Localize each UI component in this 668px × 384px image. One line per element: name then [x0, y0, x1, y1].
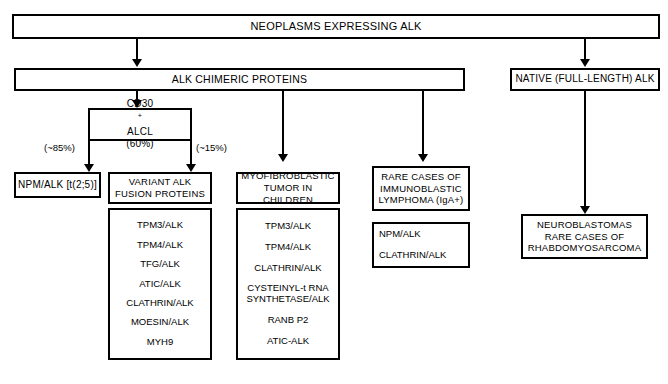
branch-box-chimeric-label: ALK CHIMERIC PROTEINS — [172, 73, 307, 86]
list-item: TFG/ALK — [110, 259, 210, 270]
root-box-label: NEOPLASMS EXPRESSING ALK — [250, 20, 421, 34]
column-header-immunoblastic-line1: RARE CASES OF — [374, 171, 468, 183]
list-item: MYH9 — [110, 337, 210, 348]
arrowhead-root-to-chimeric — [132, 59, 142, 67]
alcl-right-percentage-label: (~15%) — [196, 142, 227, 153]
myofibroblastic-fusion-list: TPM3/ALK TPM4/ALK CLATHRIN/ALK CYSTEINYL… — [236, 208, 340, 360]
arrowhead-chimeric-to-myofibroblastic — [278, 154, 288, 162]
arrowhead-native-to-neuroblastoma — [580, 206, 590, 214]
arrowhead-alcl-to-npm — [84, 164, 94, 172]
connector-chimeric-to-myofibroblastic — [282, 91, 284, 157]
list-item: CLATHRIN/ALK — [110, 298, 210, 309]
list-item: CLATHRIN/ALK — [238, 263, 338, 274]
arrowhead-chimeric-to-immunoblastic — [418, 154, 428, 162]
column-header-npm-alk: NPM/ALK [t(2;5)] — [14, 172, 101, 198]
connector-root-to-chimeric — [136, 39, 138, 61]
column-header-variant-alk-fusion-proteins: VARIANT ALK FUSION PROTEINS — [108, 172, 212, 204]
column-header-myofibroblastic-tumor: MYOFIBROBLASTIC TUMOR IN CHILDREN — [236, 172, 340, 204]
root-box-neoplasms-expressing-alk: NEOPLASMS EXPRESSING ALK — [12, 14, 660, 39]
arrowhead-root-to-native — [580, 59, 590, 67]
neuroblastoma-line1: NEUROBLASTOMAS — [523, 219, 646, 231]
list-item: TPM4/ALK — [110, 240, 210, 251]
arrowhead-alcl-to-variant — [186, 164, 196, 172]
alcl-box: CD30+ ALCL (60%) — [88, 108, 192, 141]
column-header-immunoblastic-lymphoma: RARE CASES OF IMMUNOBLASTIC LYMPHOMA (Ig… — [372, 166, 470, 211]
neuroblastoma-line3: RHABDOMYOSARCOMA — [523, 242, 646, 254]
list-item: SYNTHETASE/ALK — [238, 294, 338, 305]
immunoblastic-fusion-list: NPM/ALK CLATHRIN/ALK — [372, 222, 470, 268]
branch-box-alk-chimeric-proteins: ALK CHIMERIC PROTEINS — [14, 68, 465, 91]
list-item: RANB P2 — [238, 315, 338, 326]
column-header-myofibroblastic-line1: MYOFIBROBLASTIC — [238, 170, 338, 182]
column-header-immunoblastic-line3: LYMPHOMA (IgA+) — [374, 194, 468, 206]
alcl-label-line2: (60%) — [90, 138, 190, 151]
list-item: TPM4/ALK — [238, 242, 338, 253]
list-item: ATIC-ALK — [238, 336, 338, 347]
alcl-label-line1: CD30+ ALCL — [90, 98, 190, 138]
list-item: TPM3/ALK — [110, 220, 210, 231]
column-header-myofibroblastic-line2: TUMOR IN CHILDREN — [238, 182, 338, 206]
neuroblastoma-line2: RARE CASES OF — [523, 231, 646, 243]
list-item: ATIC/ALK — [110, 279, 210, 290]
column-header-variant-line1: VARIANT ALK — [110, 176, 210, 188]
variant-alk-fusion-protein-list: TPM3/ALK TPM4/ALK TFG/ALK ATIC/ALK CLATH… — [108, 208, 212, 360]
column-header-variant-line2: FUSION PROTEINS — [110, 188, 210, 200]
column-header-immunoblastic-line2: IMMUNOBLASTIC — [374, 183, 468, 195]
neuroblastoma-rhabdomyosarcoma-box: NEUROBLASTOMAS RARE CASES OF RHABDOMYOSA… — [521, 214, 648, 259]
column-header-npm-label: NPM/ALK [t(2;5)] — [18, 179, 97, 192]
list-item: CLATHRIN/ALK — [369, 250, 473, 261]
list-item: TPM3/ALK — [238, 221, 338, 232]
alcl-left-percentage-label: (~85%) — [44, 142, 75, 153]
connector-native-to-neuroblastoma — [584, 91, 586, 209]
alk-neoplasms-flowchart: NEOPLASMS EXPRESSING ALK ALK CHIMERIC PR… — [0, 0, 668, 384]
connector-root-to-native — [584, 39, 586, 61]
list-item: NPM/ALK — [369, 229, 473, 240]
branch-box-native-full-length-alk: NATIVE (FULL-LENGTH) ALK — [510, 68, 660, 91]
branch-box-native-label: NATIVE (FULL-LENGTH) ALK — [515, 73, 654, 86]
list-item: MOESIN/ALK — [110, 317, 210, 328]
connector-chimeric-to-immunoblastic — [422, 91, 424, 157]
